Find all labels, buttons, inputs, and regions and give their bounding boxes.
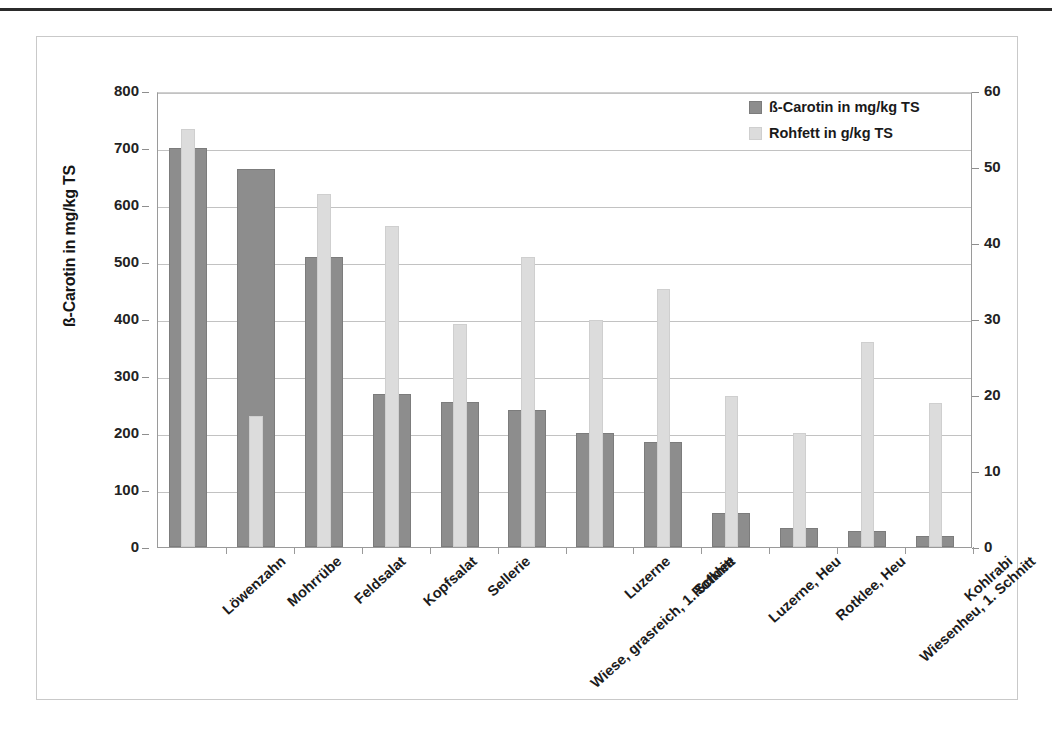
left-axis-tick-label: 200 bbox=[69, 425, 139, 440]
left-axis-tick-label: 0 bbox=[69, 539, 139, 554]
x-axis-label: Kopfsalat bbox=[420, 553, 480, 609]
right-axis-tick-mark bbox=[972, 320, 979, 321]
left-axis-ticks: 0100200300400500600700800 bbox=[37, 37, 149, 699]
bar-rohfett bbox=[181, 129, 195, 547]
right-axis-tick-label: 0 bbox=[984, 539, 1044, 554]
left-axis-tick-mark bbox=[142, 491, 149, 492]
page-header-rule bbox=[0, 8, 1052, 11]
bar-group bbox=[294, 93, 362, 547]
bar-rohfett bbox=[453, 324, 467, 547]
bar-rohfett bbox=[861, 342, 875, 547]
left-axis-tick-mark bbox=[142, 377, 149, 378]
chart-frame: 0100200300400500600700800 ß-Carotin in m… bbox=[36, 36, 1018, 700]
left-axis-tick-mark bbox=[142, 320, 149, 321]
bar-group bbox=[566, 93, 634, 547]
bar-rohfett bbox=[793, 433, 807, 547]
bar-rohfett bbox=[929, 403, 943, 547]
bar-group bbox=[701, 93, 769, 547]
x-axis-label: Löwenzahn bbox=[219, 553, 288, 618]
bar-group bbox=[498, 93, 566, 547]
x-axis-label: Sellerie bbox=[484, 553, 533, 599]
bar-rohfett bbox=[249, 416, 263, 547]
right-axis-tick-mark bbox=[972, 92, 979, 93]
right-axis-tick-label: 30 bbox=[984, 311, 1044, 326]
x-axis-tick-mark bbox=[973, 547, 974, 554]
left-axis-tick-mark bbox=[142, 92, 149, 93]
right-axis-tick-label: 20 bbox=[984, 387, 1044, 402]
legend-swatch-icon bbox=[749, 101, 762, 114]
left-axis-tick-mark bbox=[142, 263, 149, 264]
bar-group bbox=[430, 93, 498, 547]
right-axis-tick-mark bbox=[972, 396, 979, 397]
plot-area bbox=[157, 92, 972, 548]
x-axis-label: Feldsalat bbox=[351, 553, 408, 607]
bar-rohfett bbox=[385, 226, 399, 547]
x-axis-label: Luzerne, Heu bbox=[766, 553, 844, 626]
bar-rohfett bbox=[589, 320, 603, 547]
bar-rohfett bbox=[317, 194, 331, 547]
left-axis-tick-label: 700 bbox=[69, 140, 139, 155]
legend-swatch-icon bbox=[749, 127, 762, 140]
x-axis-labels: LöwenzahnMohrrübeFeldsalatKopfsalatSelle… bbox=[157, 553, 972, 683]
left-axis-tick-mark bbox=[142, 548, 149, 549]
left-axis-tick-label: 400 bbox=[69, 311, 139, 326]
left-axis-title: ß-Carotin in mg/kg TS bbox=[61, 81, 79, 411]
left-axis-tick-mark bbox=[142, 149, 149, 150]
left-axis-tick-mark bbox=[142, 206, 149, 207]
right-axis-tick-label: 10 bbox=[984, 463, 1044, 478]
right-axis-tick-mark bbox=[972, 244, 979, 245]
right-axis-tick-label: 60 bbox=[984, 83, 1044, 98]
legend-item[interactable]: ß-Carotin in mg/kg TS bbox=[749, 97, 964, 117]
right-axis-tick-mark bbox=[972, 168, 979, 169]
legend-item[interactable]: Rohfett in g/kg TS bbox=[749, 123, 964, 143]
legend-label: ß-Carotin in mg/kg TS bbox=[769, 99, 920, 115]
x-axis-label: Rotklee bbox=[688, 553, 738, 600]
chart-legend: ß-Carotin in mg/kg TSRohfett in g/kg TS bbox=[749, 93, 964, 153]
left-axis-tick-label: 800 bbox=[69, 83, 139, 98]
bar-group bbox=[362, 93, 430, 547]
bar-group bbox=[633, 93, 701, 547]
x-axis-label: Mohrrübe bbox=[284, 553, 344, 610]
left-axis-tick-label: 100 bbox=[69, 482, 139, 497]
bar-group bbox=[158, 93, 226, 547]
bar-group bbox=[226, 93, 294, 547]
x-axis-label: Luzerne bbox=[621, 553, 673, 602]
bar-rohfett bbox=[657, 289, 671, 547]
left-axis-tick-mark bbox=[142, 434, 149, 435]
left-axis-tick-label: 300 bbox=[69, 368, 139, 383]
left-axis-tick-label: 500 bbox=[69, 254, 139, 269]
left-axis-tick-label: 600 bbox=[69, 197, 139, 212]
bar-rohfett bbox=[725, 396, 739, 547]
right-axis-tick-label: 50 bbox=[984, 159, 1044, 174]
x-axis-label: Rotklee, Heu bbox=[833, 553, 909, 624]
bar-group bbox=[905, 93, 973, 547]
legend-label: Rohfett in g/kg TS bbox=[769, 125, 893, 141]
right-axis-tick-label: 40 bbox=[984, 235, 1044, 250]
bar-group bbox=[837, 93, 905, 547]
bar-group bbox=[769, 93, 837, 547]
bar-rohfett bbox=[521, 257, 535, 547]
right-axis-tick-mark bbox=[972, 472, 979, 473]
